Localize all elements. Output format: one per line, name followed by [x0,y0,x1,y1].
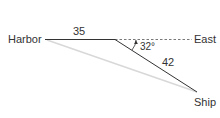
angle-label: 32° [140,42,155,52]
side-length-35: 35 [73,26,85,37]
turn-ship-line [115,40,197,93]
triangle-diagram [0,0,220,118]
angle-arrowhead [134,40,138,44]
harbor-ship-line [47,40,197,92]
ship-label: Ship [194,97,216,108]
east-label: East [194,34,216,45]
side-length-42: 42 [162,57,174,68]
harbor-label: Harbor [8,34,42,45]
